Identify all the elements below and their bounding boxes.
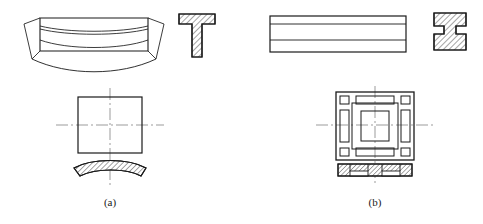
drawing-canvas: (a) [0,0,483,224]
framed-square-corner-block-top-right [401,96,410,104]
curved-bar-left-end [24,18,40,59]
caption-b: (b) [369,196,382,209]
curved-bar-arc-upper [40,26,148,31]
framed-square-edge-bar-left [340,110,349,142]
flat-strip-notch-left [350,171,368,176]
front-view-rectangular-bar [270,16,406,52]
section-view-i-profile [430,9,472,55]
curved-bar-right-end [148,18,164,59]
curved-bar-arc-bottom [32,59,156,72]
framed-square-corner-block-bottom-left [340,148,349,156]
front-view-curved-bar [24,18,164,72]
subfigure-b: (b) [270,9,472,209]
curved-bar-arc-mid [40,40,148,48]
section-view-curved-strip [70,154,152,182]
curved-strip-hatching [70,154,152,182]
subfigure-a: (a) [24,10,221,209]
framed-square-corner-block-top-left [340,96,349,104]
framed-square-corner-block-bottom-right [401,148,410,156]
caption-a: (a) [104,196,117,209]
framed-square-edge-bar-right [401,110,410,142]
section-view-t-profile [175,10,221,62]
top-view-square [56,88,164,186]
flat-strip-notch-right [382,171,400,176]
t-profile-hatching [175,10,221,62]
technical-drawing-figure: (a) [0,0,483,224]
rect-bar-outline [270,16,406,52]
